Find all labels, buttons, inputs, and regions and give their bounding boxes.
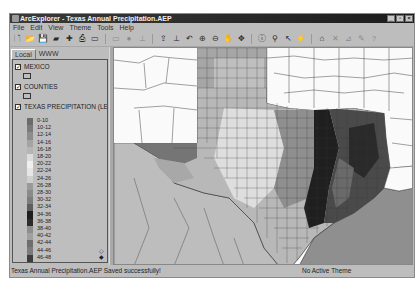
save-project-icon[interactable]: 💾: [38, 34, 48, 44]
legend-class-label: 46-48: [37, 254, 51, 261]
legend-swatch: [27, 211, 33, 218]
layout-icon[interactable]: ▭: [90, 34, 100, 44]
open-project-icon[interactable]: 📂: [25, 34, 35, 44]
remove-theme-icon[interactable]: ▭: [111, 34, 121, 44]
menu-help[interactable]: Help: [120, 23, 134, 32]
title-bar: ArcExplorer - Texas Annual Precipitation…: [10, 14, 414, 23]
properties-icon[interactable]: ⊥: [137, 34, 147, 44]
legend-class-label: 42-44: [37, 239, 51, 246]
zoom-full-icon[interactable]: ⇪: [158, 34, 168, 44]
menu-view[interactable]: View: [48, 23, 63, 32]
counties-symbol: [23, 93, 31, 99]
legend-swatch: [27, 233, 33, 240]
tab-www[interactable]: WWW: [36, 49, 62, 59]
legend-swatch: [27, 183, 33, 190]
legend-class-label: 32-34: [37, 203, 51, 210]
print-icon[interactable]: ⎙: [77, 34, 87, 44]
menu-edit[interactable]: Edit: [30, 23, 42, 32]
legend-class-label: 10-12: [37, 124, 51, 131]
query-builder-icon[interactable]: ⊿: [343, 34, 353, 44]
toolbar-separator: [311, 34, 312, 44]
legend-scroll-arrows[interactable]: ◇ ◆: [99, 248, 104, 260]
menu-bar: File Edit View Theme Tools Help: [10, 23, 414, 32]
zoom-in-icon[interactable]: ⊕: [197, 34, 207, 44]
legend-swatch: [27, 255, 33, 262]
legend-class-label: 44-46: [37, 247, 51, 254]
legend-swatch: [27, 161, 33, 168]
legend-swatch: [27, 247, 33, 254]
layer-visibility-checkbox[interactable]: ✓: [15, 64, 21, 70]
add-theme-icon[interactable]: ✚: [64, 34, 74, 44]
toolbar: 🗋 📂 💾 ▰ ✚ ⎙ ▭ ▭ ● ⊥ ⇪ ⊥ ↶ ⊕ ⊖ ✋ ✥ ⓘ ⚲ ↖ …: [10, 32, 414, 47]
layer-visibility-checkbox[interactable]: ✓: [15, 84, 21, 90]
legend-swatch: [27, 168, 33, 175]
legend-class-label: 30-32: [37, 196, 51, 203]
legend-class-label: 0-10: [37, 117, 51, 124]
layer-counties[interactable]: ✓COUNTIES: [15, 83, 58, 90]
active-theme-status: No Active Theme: [302, 264, 351, 277]
globe-icon[interactable]: ●: [124, 34, 134, 44]
legend-swatch: [27, 190, 33, 197]
legend-tabs: Local WWW: [11, 49, 62, 59]
legend-swatch: [27, 154, 33, 161]
zoom-out-icon[interactable]: ⊖: [210, 34, 220, 44]
legend-class-label: 28-30: [37, 189, 51, 196]
select-feature-icon[interactable]: ⌂: [317, 34, 327, 44]
app-icon: [12, 15, 19, 22]
find-icon[interactable]: ⚲: [270, 34, 280, 44]
texas-precipitation-map[interactable]: [114, 48, 413, 265]
identify-icon[interactable]: ⓘ: [257, 34, 267, 44]
legend-swatch: [27, 262, 33, 263]
legend-class-label: 34-36: [37, 211, 51, 218]
legend-class-label: 14-16: [37, 139, 51, 146]
layer-name: COUNTIES: [24, 83, 58, 90]
menu-file[interactable]: File: [13, 23, 24, 32]
legend-swatch: [27, 140, 33, 147]
clear-selection-icon[interactable]: ✕: [330, 34, 340, 44]
menu-theme[interactable]: Theme: [69, 23, 91, 32]
help-icon[interactable]: ?: [369, 34, 379, 44]
legend-class-label: 16-18: [37, 146, 51, 153]
legend-swatch: [27, 176, 33, 183]
toolbar-separator: [105, 34, 106, 44]
edit-icon[interactable]: ✎: [356, 34, 366, 44]
maximize-button[interactable]: ▫: [396, 15, 404, 22]
precipitation-color-ramp: [27, 118, 33, 263]
status-bar: Texas Annual Precipitation.AEP Saved suc…: [10, 264, 414, 277]
legend-class-label: 22-24: [37, 167, 51, 174]
pan-hand-icon[interactable]: ✋: [223, 34, 233, 44]
legend-class-label: 18-20: [37, 153, 51, 160]
pan-directional-icon[interactable]: ✥: [236, 34, 246, 44]
hotlink-icon[interactable]: ⚡: [296, 34, 306, 44]
map-view[interactable]: [113, 47, 413, 265]
close-button[interactable]: ×: [405, 15, 413, 22]
status-message: Texas Annual Precipitation.AEP Saved suc…: [11, 264, 161, 277]
menu-tools[interactable]: Tools: [97, 23, 113, 32]
scroll-down-icon[interactable]: ◆: [99, 254, 104, 260]
layer-texas-precipitation[interactable]: ✓TEXAS PRECIPITATION (LEG: [15, 103, 108, 110]
measure-icon[interactable]: ↖: [283, 34, 293, 44]
legend-swatch: [27, 132, 33, 139]
zoom-previous-icon[interactable]: ↶: [184, 34, 194, 44]
legend-panel: ✓MEXICO ✓COUNTIES ✓TEXAS PRECIPITATION (…: [12, 59, 108, 263]
legend-swatch: [27, 204, 33, 211]
layer-mexico[interactable]: ✓MEXICO: [15, 63, 50, 70]
tab-local[interactable]: Local: [11, 49, 36, 59]
legend-swatch: [27, 219, 33, 226]
layer-name: TEXAS PRECIPITATION (LEG: [24, 103, 108, 110]
layer-visibility-checkbox[interactable]: ✓: [15, 104, 21, 110]
catalog-icon[interactable]: ▰: [51, 34, 61, 44]
legend-class-label: 38-40: [37, 225, 51, 232]
zoom-active-icon[interactable]: ⊥: [171, 34, 181, 44]
toolbar-separator: [251, 34, 252, 44]
legend-swatch: [27, 240, 33, 247]
legend-class-label: 24-26: [37, 175, 51, 182]
minimize-button[interactable]: _: [387, 15, 395, 22]
legend-swatch: [27, 226, 33, 233]
precipitation-class-labels: 0-1010-1212-1414-1616-1818-2020-2222-242…: [37, 117, 51, 263]
window-title: ArcExplorer - Texas Annual Precipitation…: [20, 15, 172, 22]
arcexplorer-window: ArcExplorer - Texas Annual Precipitation…: [9, 13, 415, 278]
legend-swatch: [27, 147, 33, 154]
legend-swatch: [27, 197, 33, 204]
new-project-icon[interactable]: 🗋: [12, 34, 22, 44]
